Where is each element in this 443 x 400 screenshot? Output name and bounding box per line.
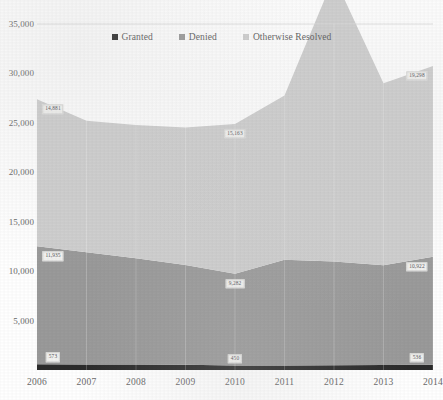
chart-legend: GrantedDeniedOtherwise Resolved bbox=[0, 32, 443, 42]
legend-item-denied[interactable]: Denied bbox=[179, 32, 217, 42]
y-axis-tick-label: 15,000 bbox=[9, 217, 34, 227]
legend-swatch-icon bbox=[243, 34, 249, 40]
legend-label: Denied bbox=[189, 32, 217, 42]
x-axis-tick-label: 2006 bbox=[27, 377, 47, 387]
legend-swatch-icon bbox=[179, 34, 185, 40]
y-axis-tick-label: 10,000 bbox=[9, 266, 34, 276]
legend-swatch-icon bbox=[112, 34, 118, 40]
data-point-label: 14,881 bbox=[42, 105, 63, 114]
chart-plot-area bbox=[0, 0, 443, 400]
data-point-label: 19,298 bbox=[406, 71, 427, 80]
data-point-label: 573 bbox=[46, 353, 60, 362]
data-point-label: 536 bbox=[410, 353, 424, 362]
y-axis-tick-label: 25,000 bbox=[9, 118, 34, 128]
data-point-label: 10,922 bbox=[406, 262, 427, 271]
legend-item-granted[interactable]: Granted bbox=[112, 32, 153, 42]
data-point-label: 9,282 bbox=[226, 279, 245, 288]
y-axis: 5,00010,00015,00020,00025,00030,00035,00… bbox=[0, 0, 34, 400]
data-point-label: 11,935 bbox=[42, 252, 63, 261]
data-point-label: 450 bbox=[228, 354, 242, 363]
stacked-area-chart: GrantedDeniedOtherwise Resolved 5,00010,… bbox=[0, 0, 443, 400]
legend-label: Granted bbox=[122, 32, 153, 42]
x-axis-tick-label: 2013 bbox=[374, 377, 394, 387]
x-axis-tick-label: 2007 bbox=[77, 377, 97, 387]
legend-label: Otherwise Resolved bbox=[253, 32, 332, 42]
x-axis-tick-label: 2009 bbox=[176, 377, 196, 387]
y-axis-tick-label: 35,000 bbox=[9, 19, 34, 29]
x-axis-tick-label: 2012 bbox=[324, 377, 344, 387]
x-axis-tick-label: 2008 bbox=[126, 377, 146, 387]
y-axis-tick-label: 20,000 bbox=[9, 167, 34, 177]
x-axis-tick-label: 2011 bbox=[275, 377, 294, 387]
legend-item-otherwise-resolved[interactable]: Otherwise Resolved bbox=[243, 32, 332, 42]
y-axis-tick-label: 5,000 bbox=[13, 316, 34, 326]
x-axis-tick-label: 2010 bbox=[225, 377, 245, 387]
y-axis-tick-label: 30,000 bbox=[9, 68, 34, 78]
data-point-label: 15,163 bbox=[224, 129, 245, 138]
x-axis-tick-label: 2014 bbox=[423, 377, 443, 387]
x-axis: 200620072008200920102011201220132014 bbox=[0, 377, 443, 397]
